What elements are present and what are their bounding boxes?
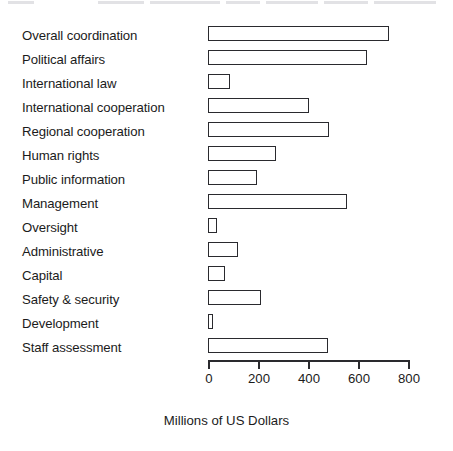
bar: [208, 170, 257, 185]
bar: [208, 74, 230, 89]
bar: [208, 98, 309, 113]
bar: [208, 242, 238, 257]
x-axis-tick: [258, 360, 260, 369]
bar: [208, 194, 347, 209]
category-label: Political affairs: [22, 52, 105, 67]
x-axis-tick: [208, 360, 210, 369]
bar: [208, 26, 389, 41]
bar: [208, 314, 213, 329]
category-label: Public information: [22, 172, 125, 187]
category-label: Human rights: [22, 148, 99, 163]
bar: [208, 50, 367, 65]
bar: [208, 218, 217, 233]
x-axis-tick: [408, 360, 410, 369]
bar: [208, 290, 261, 305]
category-label: Safety & security: [22, 292, 119, 307]
category-label: International cooperation: [22, 100, 165, 115]
x-axis-tick: [358, 360, 360, 369]
bar-chart: Overall coordination Political affairs I…: [0, 0, 453, 451]
x-axis-tick-label: 800: [379, 371, 439, 386]
category-label: Regional cooperation: [22, 124, 145, 139]
chart-page: Overall coordination Political affairs I…: [0, 0, 453, 451]
category-label: Staff assessment: [22, 340, 121, 355]
bar: [208, 338, 328, 353]
category-label: Overall coordination: [22, 28, 137, 43]
bar: [208, 122, 329, 137]
category-label: Administrative: [22, 244, 103, 259]
category-label: Oversight: [22, 220, 78, 235]
bar: [208, 146, 276, 161]
category-label: Management: [22, 196, 98, 211]
bar: [208, 266, 225, 281]
x-axis-title: Millions of US Dollars: [0, 413, 453, 428]
category-label: International law: [22, 76, 116, 91]
x-axis-tick: [308, 360, 310, 369]
category-label: Capital: [22, 268, 62, 283]
category-label: Development: [22, 316, 99, 331]
